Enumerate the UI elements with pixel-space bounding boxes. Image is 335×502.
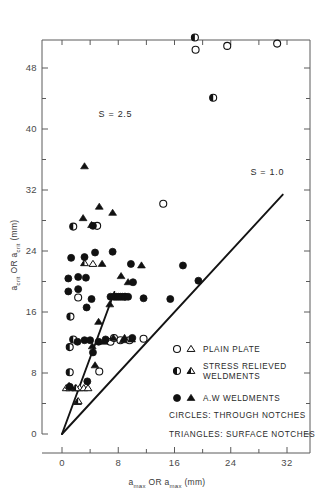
legend-circle-plain-plate: [174, 346, 181, 353]
x-tick-label: 16: [169, 457, 180, 468]
x-tick-label: 8: [115, 457, 121, 468]
marker-filled-circle: [81, 254, 88, 261]
marker-filled-circle: [88, 296, 95, 303]
y-tick-label: 24: [26, 245, 37, 256]
y-tick-label: 8: [31, 367, 37, 378]
marker-filled-circle: [82, 274, 89, 281]
marker-filled-circle: [75, 273, 82, 280]
marker-filled-circle: [92, 249, 99, 256]
x-tick-label: 24: [225, 457, 236, 468]
marker-filled-circle: [84, 378, 91, 385]
legend-label-aw-weldments: A.W WELDMENTS: [203, 394, 280, 403]
marker-filled-circle: [179, 262, 186, 269]
y-tick-label: 32: [26, 184, 37, 195]
marker-open-circle: [140, 335, 147, 342]
slope-annotation: S = 1.0: [250, 167, 284, 177]
x-tick-label: 32: [281, 457, 292, 468]
marker-filled-circle: [127, 260, 134, 267]
x-tick-label: 0: [59, 457, 65, 468]
marker-filled-circle: [89, 349, 96, 356]
marker-filled-circle: [75, 286, 82, 293]
y-tick-label: 16: [26, 306, 37, 317]
marker-filled-circle: [140, 295, 147, 302]
marker-open-circle: [160, 200, 167, 207]
marker-filled-circle: [195, 277, 202, 284]
marker-filled-circle: [74, 338, 81, 345]
y-tick-label: 0: [31, 428, 37, 439]
marker-filled-circle: [65, 275, 72, 282]
legend-label-plain-plate: PLAIN PLATE: [203, 345, 260, 354]
marker-filled-circle: [65, 288, 72, 295]
marker-filled-circle: [83, 304, 90, 311]
marker-open-circle: [192, 46, 199, 53]
legend-label2-stress-relieved: WELDMENTS: [203, 372, 260, 381]
y-tick-label: 48: [26, 62, 37, 73]
scatter-chart-figure: 08162432404808162432 S = 2.5S = 1.0 PLAI…: [0, 0, 335, 502]
slope-annotation: S = 2.5: [99, 109, 133, 119]
legend-note: CIRCLES: THROUGH NOTCHES: [169, 411, 306, 420]
marker-open-circle: [96, 368, 103, 375]
y-tick-label: 40: [26, 123, 37, 134]
marker-filled-circle: [167, 296, 174, 303]
legend-note: TRIANGLES: SURFACE NOTCHES: [169, 430, 315, 439]
chart-canvas: 08162432404808162432 S = 2.5S = 1.0 PLAI…: [0, 0, 335, 502]
marker-filled-circle: [68, 254, 75, 261]
marker-filled-circle: [109, 248, 116, 255]
chart-background: [0, 0, 335, 502]
marker-open-circle: [75, 294, 82, 301]
legend-label-stress-relieved: STRESS RELIEVED: [203, 362, 287, 371]
marker-filled-circle: [125, 293, 132, 300]
legend-circle-aw-weldments: [174, 395, 181, 402]
marker-open-circle: [224, 42, 231, 49]
marker-open-circle: [274, 40, 281, 47]
